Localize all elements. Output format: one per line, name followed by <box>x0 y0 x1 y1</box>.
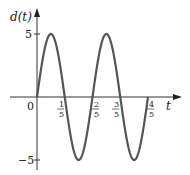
x-tick-label-2-5: 2 5 <box>92 100 99 119</box>
chart: d(t) t 5 −5 0 1 5 2 5 3 5 4 5 <box>0 0 190 175</box>
svg-text:5: 5 <box>94 110 99 119</box>
svg-text:5: 5 <box>114 110 119 119</box>
x-tick-label-0: 0 <box>27 100 34 113</box>
x-tick-label-3-5: 3 5 <box>112 100 119 119</box>
x-tick-label-4-5: 4 5 <box>147 100 154 119</box>
y-axis-arrow-icon <box>34 8 40 17</box>
y-axis-label: d(t) <box>10 10 32 24</box>
svg-text:5: 5 <box>59 110 64 119</box>
svg-text:5: 5 <box>149 110 154 119</box>
y-tick-label-5: 5 <box>25 28 32 41</box>
x-tick-label-1-5: 1 5 <box>57 100 64 119</box>
x-axis-arrow-icon <box>173 94 182 100</box>
x-axis-label: t <box>166 99 171 113</box>
svg-text:4: 4 <box>149 100 154 109</box>
svg-text:2: 2 <box>94 100 99 109</box>
svg-text:1: 1 <box>59 100 64 109</box>
y-tick-label-neg5: −5 <box>18 154 34 167</box>
svg-text:3: 3 <box>114 100 119 109</box>
